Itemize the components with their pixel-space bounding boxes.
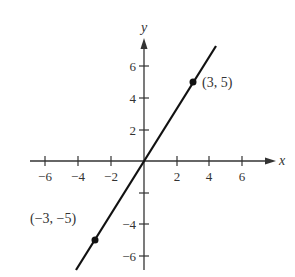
x-tick-label: −2 <box>104 169 118 184</box>
point-label-3-5: (3, 5) <box>202 75 233 91</box>
point-3-5 <box>190 79 197 86</box>
x-tick-label: −4 <box>71 169 85 184</box>
y-tick-label: 2 <box>130 123 137 138</box>
x-tick-label: −6 <box>38 169 52 184</box>
y-tick-label: −6 <box>122 249 136 264</box>
point-neg3-neg5 <box>92 237 99 244</box>
y-axis-label: y <box>139 20 148 35</box>
y-tick-label: −4 <box>122 217 136 232</box>
x-axis-label: x <box>278 153 286 168</box>
y-tick-label: 4 <box>130 91 137 106</box>
x-axis-arrow-icon <box>265 158 276 165</box>
x-tick-label: 6 <box>239 169 246 184</box>
x-tick-label: 4 <box>206 169 213 184</box>
y-tick-label: 6 <box>130 59 137 74</box>
x-tick-label: 2 <box>174 169 181 184</box>
coordinate-plot: −6 −4 −2 2 4 6 6 4 2 −4 −6 x y (3, 5) (−… <box>0 0 295 277</box>
point-label-neg3-neg5: (−3, −5) <box>30 211 76 227</box>
y-axis-arrow-icon <box>141 38 148 49</box>
